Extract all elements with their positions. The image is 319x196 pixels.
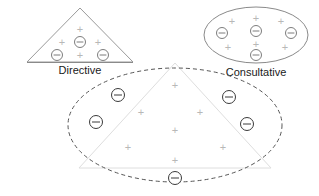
minus-icon (223, 91, 236, 104)
consultative-label: Consultative (226, 66, 287, 78)
diagram-root: + + + + Directive (0, 0, 319, 196)
minus-icon (112, 89, 125, 102)
directive-label: Directive (59, 64, 102, 76)
minus-icon (90, 116, 103, 129)
plus-icon: + (95, 36, 101, 48)
participative-symbols: + + + + (90, 79, 254, 185)
plus-icon: + (172, 124, 178, 136)
plus-icon: + (59, 36, 65, 48)
minus-icon (217, 28, 228, 39)
plus-icon: + (77, 49, 83, 61)
minus-icon (286, 28, 297, 39)
minus-icon (251, 26, 262, 37)
group-dynamics-diagram: + + + + Directive (0, 0, 319, 196)
minus-icon (52, 50, 63, 61)
minus-icon (241, 118, 254, 131)
plus-icon: + (229, 15, 235, 27)
consultative-symbols: + + + + + (217, 12, 297, 61)
plus-icon: + (197, 106, 203, 118)
plus-icon: + (172, 154, 178, 166)
minus-icon (169, 172, 182, 185)
group-consultative: + + + + + (204, 7, 308, 78)
minus-icon (75, 37, 86, 48)
minus-icon (98, 50, 109, 61)
group-participative: + + + + (68, 63, 282, 185)
plus-icon: + (282, 41, 288, 53)
group-directive: + + + + Directive (27, 8, 133, 76)
minus-icon (251, 50, 262, 61)
plus-icon: + (172, 79, 178, 91)
plus-icon: + (225, 41, 231, 53)
plus-icon: + (253, 38, 259, 50)
plus-icon: + (138, 106, 144, 118)
plus-icon: + (220, 141, 226, 153)
plus-icon: + (77, 23, 83, 35)
plus-icon: + (278, 15, 284, 27)
plus-icon: + (253, 12, 259, 24)
plus-icon: + (125, 141, 131, 153)
